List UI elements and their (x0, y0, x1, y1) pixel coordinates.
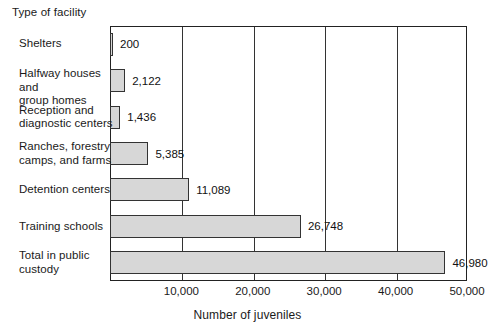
category-label-line: Ranches, forestry (19, 140, 114, 154)
x-axis-tick-labels: 10,00020,00030,00040,00050,000 (0, 285, 495, 301)
bar-value-label: 5,385 (155, 148, 184, 160)
category-label: Detention centers (19, 183, 114, 197)
bar-row: 46,980 (110, 251, 467, 274)
bar-row: 1,436 (110, 106, 467, 129)
category-label: Total in publiccustody (19, 249, 114, 276)
y-axis-title: Type of facility (12, 6, 86, 18)
bar (110, 251, 445, 274)
bar-value-label: 2,122 (132, 75, 161, 87)
bar-value-label: 1,436 (127, 111, 156, 123)
category-label-line: Total in public (19, 249, 114, 263)
bar-row: 200 (110, 33, 467, 56)
category-label-line: diagnostic centers (19, 117, 114, 131)
x-tick-label: 30,000 (307, 285, 342, 297)
bar-value-label: 46,980 (452, 257, 487, 269)
category-label: Shelters (19, 37, 114, 51)
x-tick-label: 20,000 (235, 285, 270, 297)
bar-row: 11,089 (110, 178, 467, 201)
x-tick-label: 50,000 (449, 285, 484, 297)
category-label: Reception anddiagnostic centers (19, 104, 114, 131)
category-label-line: custody (19, 263, 114, 277)
category-label: Ranches, forestrycamps, and farms (19, 140, 114, 167)
category-label: Halfway houses andgroup homes (19, 67, 114, 108)
category-label-line: Shelters (19, 37, 114, 51)
category-label: Training schools (19, 220, 114, 234)
bar (110, 215, 301, 238)
category-label-line: Detention centers (19, 183, 114, 197)
bar-value-label: 26,748 (308, 220, 343, 232)
bar-row: 5,385 (110, 142, 467, 165)
x-tick-label: 40,000 (378, 285, 413, 297)
category-label-line: Reception and (19, 104, 114, 118)
category-labels: SheltersHalfway houses andgroup homesRec… (0, 26, 108, 281)
bar-chart: Type of facility 2002,1221,4365,38511,08… (0, 0, 495, 332)
x-tick-label: 10,000 (164, 285, 199, 297)
category-label-line: Training schools (19, 220, 114, 234)
bar-row: 2,122 (110, 69, 467, 92)
bar-value-label: 200 (120, 38, 139, 50)
bar (110, 142, 148, 165)
bars-layer: 2002,1221,4365,38511,08926,74846,980 (110, 26, 467, 281)
x-axis-title: Number of juveniles (0, 308, 495, 322)
category-label-line: camps, and farms (19, 154, 114, 168)
category-label-line: Halfway houses and (19, 67, 114, 94)
bar-value-label: 11,089 (196, 184, 230, 196)
bar (110, 178, 189, 201)
bar-row: 26,748 (110, 215, 467, 238)
